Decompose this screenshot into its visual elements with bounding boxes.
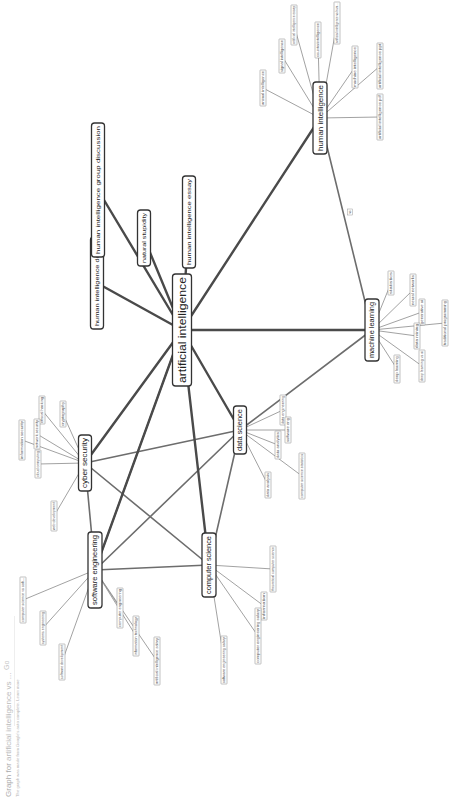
svg-text:traditional programming: traditional programming bbox=[443, 301, 447, 345]
svg-text:machine intelligence: machine intelligence bbox=[353, 47, 357, 87]
svg-text:statistics: statistics bbox=[389, 271, 393, 294]
leaf-node[interactable]: information bbox=[261, 592, 267, 620]
leaf-node[interactable]: information security bbox=[19, 420, 25, 460]
svg-text:deep learning vs ai: deep learning vs ai bbox=[420, 351, 424, 381]
hub-node-cy[interactable]: cyber security bbox=[79, 435, 92, 491]
leaf-node[interactable]: cloud computing bbox=[35, 450, 41, 478]
svg-text:human intelligence: human intelligence bbox=[317, 85, 325, 151]
leaf-node[interactable]: deep learning vs ai bbox=[419, 350, 425, 382]
leaf-node[interactable]: generative ai bbox=[419, 299, 425, 325]
leaf-node[interactable]: computer science vs soft... bbox=[20, 577, 26, 623]
svg-text:software engineering: software engineering bbox=[91, 535, 99, 605]
go-button[interactable]: Go bbox=[3, 661, 10, 670]
leaf-node[interactable]: computer science statistics bbox=[299, 453, 305, 499]
leaf-node[interactable]: software engineering salary bbox=[221, 636, 227, 684]
svg-text:data analytics: data analytics bbox=[276, 431, 280, 458]
svg-text:computer science: computer science bbox=[205, 536, 213, 594]
svg-text:data engineering: data engineering bbox=[281, 396, 285, 424]
leaf-node[interactable]: artificial intelligence salary bbox=[154, 637, 160, 685]
leaf-node[interactable]: statistics bbox=[388, 271, 394, 295]
svg-text:ethical hacking: ethical hacking bbox=[40, 397, 44, 423]
hub-node-ml[interactable]: machine learning bbox=[365, 299, 379, 361]
svg-text:artificial intelligence essay: artificial intelligence essay bbox=[292, 5, 296, 44]
svg-text:information: information bbox=[262, 592, 266, 619]
svg-text:computer engineering: computer engineering bbox=[118, 589, 122, 627]
svg-text:data science: data science bbox=[236, 409, 243, 451]
center-node-ai[interactable]: artificial intelligence bbox=[173, 274, 192, 386]
leaf-node[interactable]: network security bbox=[34, 419, 40, 449]
leaf-node[interactable]: deep learning bbox=[394, 355, 400, 383]
leaf-node[interactable]: traditional programming bbox=[442, 300, 448, 346]
svg-text:information technology: information technology bbox=[134, 616, 138, 655]
leaf-node[interactable]: machine intelligence bbox=[352, 46, 358, 88]
leaf-node[interactable]: software eng bbox=[285, 417, 291, 443]
leaf-edge bbox=[23, 570, 95, 600]
hub-node-hie[interactable]: human intelligence essay bbox=[183, 176, 196, 268]
svg-text:theoretical computer science: theoretical computer science bbox=[271, 547, 275, 591]
leaf-node[interactable]: theoretical computer science bbox=[270, 546, 276, 592]
leaf-edge bbox=[240, 430, 302, 476]
svg-text:software engineering salary: software engineering salary bbox=[222, 636, 226, 683]
leaf-node[interactable]: web development bbox=[51, 501, 57, 531]
search-query-input[interactable]: artificial intelligence vs ... bbox=[4, 672, 13, 760]
leaf-node[interactable]: systems engineering bbox=[40, 611, 46, 645]
leaf-node[interactable]: neural networks bbox=[410, 274, 416, 306]
hub-node-cs[interactable]: computer science bbox=[202, 533, 216, 597]
leaf-node[interactable]: artificial intelligence ppt bbox=[377, 43, 383, 89]
hub-edges bbox=[85, 118, 372, 570]
leaf-edge bbox=[372, 323, 445, 330]
svg-text:neural networks: neural networks bbox=[411, 274, 415, 305]
svg-text:computer science statistics: computer science statistics bbox=[300, 453, 304, 498]
leaf-node[interactable]: software development bbox=[59, 644, 65, 680]
svg-text:artificial intelligence: artificial intelligence bbox=[176, 277, 188, 383]
leaf-node[interactable]: data analytics bbox=[275, 431, 281, 459]
svg-text:generative ai: generative ai bbox=[420, 300, 424, 324]
leaf-node[interactable]: information technology bbox=[133, 616, 139, 656]
hub-node-ds[interactable]: data science bbox=[234, 406, 247, 454]
svg-text:human intelligence essay: human intelligence essay bbox=[186, 179, 192, 265]
leaf-node[interactable]: data mining bbox=[414, 323, 420, 349]
graph-title: Graph for artificial intelligence vs ... bbox=[4, 672, 13, 797]
svg-text:software eng: software eng bbox=[286, 418, 290, 442]
hub-edge bbox=[320, 118, 372, 330]
svg-text:systems engineering: systems engineering bbox=[41, 612, 45, 644]
leaf-node[interactable]: artificial intelligence vs hum... bbox=[334, 2, 340, 44]
leaf-edge bbox=[95, 570, 157, 661]
title-prefix: Graph for bbox=[4, 763, 13, 797]
leaf-edge bbox=[320, 117, 380, 118]
leaf-node[interactable]: computer engineering salary bbox=[255, 608, 261, 664]
hub-edge bbox=[95, 565, 209, 570]
leaf-node[interactable]: data analysis bbox=[265, 472, 271, 498]
svg-text:cloud computing: cloud computing bbox=[36, 451, 40, 477]
leaf-node[interactable]: animal intelligence bbox=[260, 70, 266, 106]
hub-node-ns[interactable]: natural stupidity bbox=[138, 210, 151, 266]
svg-text:data analysis: data analysis bbox=[266, 472, 270, 497]
leaf-node[interactable]: computer engineering bbox=[117, 588, 123, 628]
autocomplete-graph[interactable]: vs animal intelligencesignal intelligenc… bbox=[0, 0, 456, 803]
svg-text:machine learning: machine learning bbox=[368, 302, 376, 358]
svg-text:software development: software development bbox=[60, 645, 64, 679]
leaf-node[interactable]: signal intelligence bbox=[279, 39, 285, 73]
hub-edge bbox=[95, 430, 240, 570]
leaf-node[interactable]: artificial intelligence pdf bbox=[377, 94, 383, 140]
leaf-node[interactable]: cryptography bbox=[60, 401, 66, 427]
center-edges bbox=[85, 118, 372, 570]
hub-node-se[interactable]: software engineering bbox=[88, 532, 102, 608]
svg-text:network security: network security bbox=[35, 419, 39, 448]
hub-edge bbox=[85, 430, 240, 463]
leaf-node[interactable]: counterintelligence bbox=[315, 22, 321, 58]
svg-text:counterintelligence: counterintelligence bbox=[316, 23, 320, 57]
hub-node-higd[interactable]: human intelligence group discussion bbox=[92, 123, 105, 257]
leaf-edge bbox=[209, 565, 273, 569]
hub-node-hi[interactable]: human intelligence bbox=[313, 82, 327, 154]
svg-text:artificial intelligence vs hum: artificial intelligence vs hum... bbox=[335, 3, 339, 43]
svg-text:artificial intelligence ppt: artificial intelligence ppt bbox=[378, 44, 382, 88]
svg-text:artificial intelligence pdf: artificial intelligence pdf bbox=[378, 95, 382, 139]
svg-text:signal intelligence: signal intelligence bbox=[280, 40, 284, 72]
leaf-node[interactable]: artificial intelligence essay bbox=[291, 5, 297, 45]
svg-text:natural stupidity: natural stupidity bbox=[141, 213, 147, 263]
hub-edge bbox=[240, 330, 372, 430]
svg-text:vs: vs bbox=[348, 210, 352, 214]
leaf-edge bbox=[209, 565, 264, 606]
svg-text:animal intelligence: animal intelligence bbox=[261, 71, 265, 105]
